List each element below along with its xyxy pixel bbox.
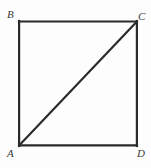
geometry-figure: B C A D	[0, 0, 151, 168]
vertex-label-D: D	[137, 148, 145, 159]
vertex-label-B: B	[7, 9, 14, 20]
figure-canvas	[0, 0, 151, 168]
vertex-label-C: C	[138, 11, 145, 22]
vertex-label-A: A	[7, 148, 14, 159]
